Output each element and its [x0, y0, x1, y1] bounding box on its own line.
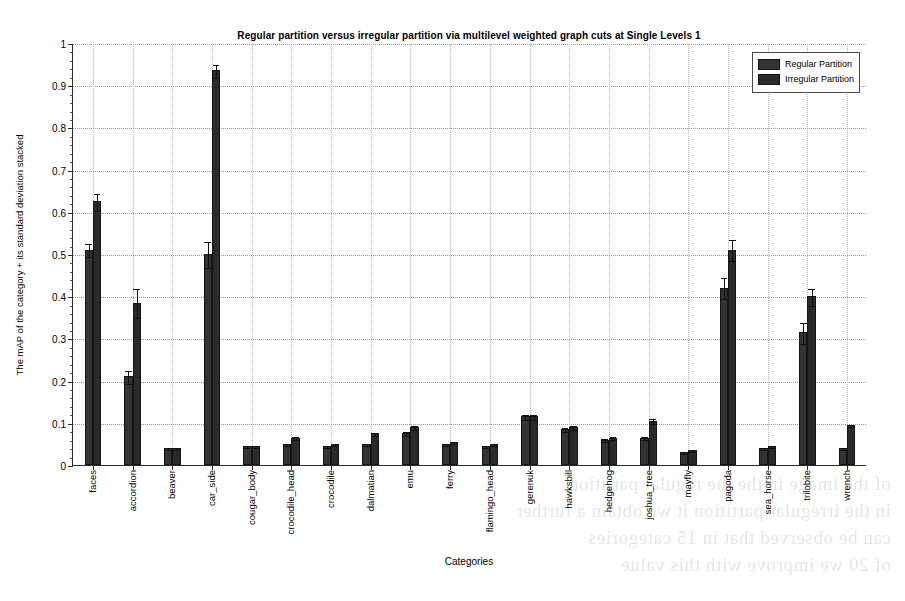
error-bar-cap-upper	[213, 65, 220, 66]
x-tick-label-text: sea_horse	[761, 470, 772, 514]
x-tick-label-text: pagoda	[722, 470, 733, 502]
gridline-vertical	[371, 44, 372, 465]
gridline-vertical	[688, 44, 689, 465]
y-tick-mark	[68, 339, 73, 340]
gridline-vertical	[649, 44, 650, 465]
x-axis-label: Categories	[72, 556, 866, 567]
error-bar-cap-lower	[800, 344, 807, 345]
x-tick-label: dalmatian	[370, 429, 381, 470]
gridline-horizontal	[73, 86, 866, 87]
error-bar-line	[803, 323, 804, 344]
y-tick-minor	[70, 78, 73, 79]
bar-car_side-irregular	[212, 70, 220, 465]
gridline-vertical	[252, 44, 253, 465]
x-tick-label: hedgehog	[608, 428, 619, 470]
y-tick-minor	[70, 441, 73, 442]
error-bar-cap-lower	[482, 448, 489, 449]
y-tick-label: 0.6	[52, 207, 66, 218]
error-bar-cap-upper	[94, 194, 101, 195]
y-tick-minor	[70, 289, 73, 290]
y-tick-minor	[70, 390, 73, 391]
y-tick-label: 1	[60, 39, 66, 50]
bar-pagoda-irregular	[728, 250, 736, 465]
y-tick-label: 0.3	[52, 334, 66, 345]
bar-chart-figure: Regular partition versus irregular parti…	[0, 0, 905, 601]
error-bar-line	[732, 240, 733, 261]
gridline-horizontal	[73, 382, 866, 383]
x-tick-label: flamingo_head	[489, 408, 500, 470]
gridline-horizontal	[73, 297, 866, 298]
x-tick-label-text: trilobite	[801, 470, 812, 501]
x-tick-label-text: hedgehog	[602, 470, 613, 512]
legend-swatch-regular	[758, 59, 780, 70]
x-tick-label: cougar_body	[251, 415, 262, 470]
gridline-horizontal	[73, 424, 866, 425]
y-tick-minor	[70, 356, 73, 357]
error-bar-cap-lower	[244, 448, 251, 449]
y-tick-minor	[70, 95, 73, 96]
gridline-vertical	[172, 44, 173, 465]
y-tick-minor	[70, 112, 73, 113]
error-bar-line	[89, 244, 90, 257]
y-tick-minor	[70, 365, 73, 366]
gridline-vertical	[490, 44, 491, 465]
error-bar-cap-upper	[85, 244, 92, 245]
gridline-vertical	[450, 44, 451, 465]
y-tick-minor	[70, 187, 73, 188]
bar-faces-regular	[85, 250, 93, 465]
y-tick-minor	[70, 314, 73, 315]
x-tick-label-text: mayfly	[682, 470, 693, 497]
gridline-horizontal	[73, 339, 866, 340]
gridline-vertical	[847, 44, 848, 465]
error-bar-cap-lower	[363, 446, 370, 447]
y-tick-label: 0.4	[52, 292, 66, 303]
error-bar-line	[216, 65, 217, 78]
y-tick-minor	[70, 272, 73, 273]
error-bar-cap-lower	[848, 427, 855, 428]
y-tick-mark	[68, 297, 73, 298]
y-tick-minor	[70, 323, 73, 324]
gridline-horizontal	[73, 171, 866, 172]
x-tick-label: hawksbill	[568, 431, 579, 470]
x-tick-label: sea_horse	[767, 426, 778, 470]
error-bar-cap-upper	[808, 289, 815, 290]
y-tick-minor	[70, 306, 73, 307]
error-bar-cap-lower	[451, 444, 458, 445]
y-tick-mark	[68, 255, 73, 256]
y-tick-minor	[70, 238, 73, 239]
x-tick-label: mayfly	[687, 443, 698, 470]
x-tick-label-text: flamingo_head	[483, 470, 494, 532]
error-bar-cap-lower	[808, 306, 815, 307]
error-bar-cap-upper	[848, 425, 855, 426]
x-tick-label-text: car_side	[205, 470, 216, 506]
error-bar-cap-lower	[94, 211, 101, 212]
gridline-horizontal	[73, 128, 866, 129]
plot-area: 00.10.20.30.40.50.60.70.80.91	[72, 44, 866, 466]
bar-faces-irregular	[93, 201, 101, 465]
error-bar-cap-lower	[729, 261, 736, 262]
x-tick-label-text: hawksbill	[563, 470, 574, 509]
x-tick-label: beaver	[171, 441, 182, 470]
error-bar-line	[97, 194, 98, 211]
error-bar-cap-upper	[729, 240, 736, 241]
y-tick-minor	[70, 103, 73, 104]
x-tick-label: trilobite	[806, 439, 817, 470]
y-tick-mark	[68, 86, 73, 87]
error-bar-cap-lower	[411, 430, 418, 431]
y-tick-minor	[70, 398, 73, 399]
error-bar-line	[208, 242, 209, 267]
legend-item-irregular: Irregular Partition	[758, 72, 854, 86]
y-tick-label: 0.8	[52, 123, 66, 134]
gridline-vertical	[768, 44, 769, 465]
y-tick-mark	[68, 382, 73, 383]
y-tick-minor	[70, 61, 73, 62]
y-tick-mark	[68, 128, 73, 129]
error-bar-line	[128, 371, 129, 384]
error-bar-cap-upper	[641, 437, 648, 438]
x-tick-label-text: crocodile_head	[285, 470, 296, 534]
gridline-horizontal	[73, 44, 866, 45]
gridline-vertical	[609, 44, 610, 465]
x-tick-label: accordion	[132, 429, 143, 470]
error-bar-cap-upper	[443, 444, 450, 445]
y-tick-minor	[70, 449, 73, 450]
